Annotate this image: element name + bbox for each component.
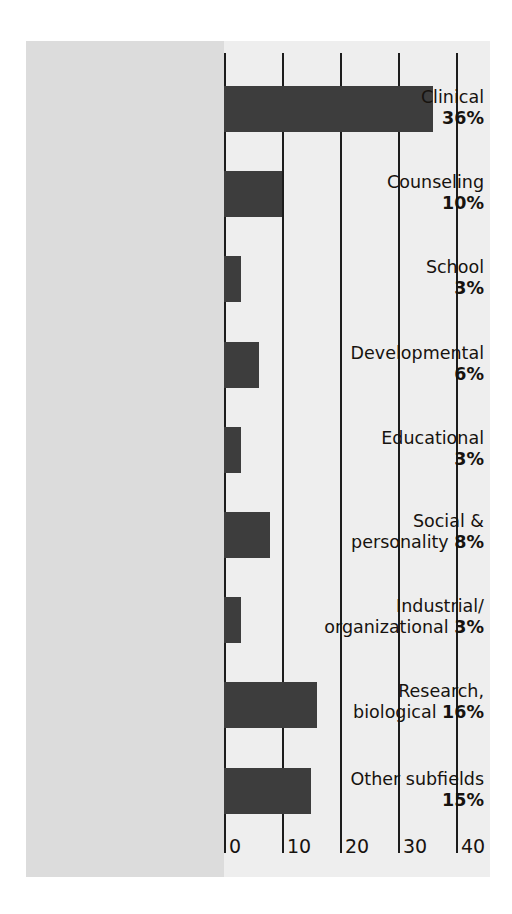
bar-educational bbox=[224, 427, 241, 473]
bar-label: Research,biological 16% bbox=[294, 681, 490, 723]
bar-label: Educational3% bbox=[294, 428, 490, 470]
bar-label-line1: Educational bbox=[294, 428, 484, 449]
bar-label-line2: biological 16% bbox=[294, 702, 484, 723]
bar-label-line2: 3% bbox=[294, 449, 484, 470]
bar-label-line1: Developmental bbox=[294, 343, 484, 364]
bar-label-line2: 15% bbox=[294, 790, 484, 811]
bar-value-label: 6% bbox=[454, 364, 484, 384]
bar-industrial-organizational bbox=[224, 597, 241, 643]
bar-value-label: 3% bbox=[454, 449, 484, 469]
bar-label-line2: 36% bbox=[294, 108, 484, 129]
category-label-band bbox=[26, 41, 224, 877]
bar-label-line2: 10% bbox=[294, 193, 484, 214]
bar-label: School3% bbox=[294, 257, 490, 299]
bar-label-line1: Other subfields bbox=[294, 769, 484, 790]
x-tick-label-30: 30 bbox=[403, 835, 427, 857]
bar-counseling bbox=[224, 171, 282, 217]
bar-value-label: 3% bbox=[454, 278, 484, 298]
x-tick-label-40: 40 bbox=[461, 835, 485, 857]
bar-label: Clinical36% bbox=[294, 87, 490, 129]
x-tick-label-10: 10 bbox=[287, 835, 311, 857]
bar-value-label: 36% bbox=[442, 108, 484, 128]
bar-value-label: 16% bbox=[442, 702, 484, 722]
bar-label-line1: Social & bbox=[294, 511, 484, 532]
bar-value-label: 10% bbox=[442, 193, 484, 213]
bar-label: Industrial/organizational 3% bbox=[294, 596, 490, 638]
bar-label: Developmental6% bbox=[294, 343, 490, 385]
bar-label: Social &personality 8% bbox=[294, 511, 490, 553]
figure: 010203040 Clinical36%Counseling10%School… bbox=[0, 0, 512, 914]
bar-chart: 010203040 Clinical36%Counseling10%School… bbox=[26, 41, 490, 877]
bar-label: Counseling10% bbox=[294, 172, 490, 214]
bar-label-line2: 6% bbox=[294, 364, 484, 385]
bar-school bbox=[224, 256, 241, 302]
bar-social-personality bbox=[224, 512, 270, 558]
bar-label-line1: Clinical bbox=[294, 87, 484, 108]
x-tick-label-0: 0 bbox=[229, 835, 241, 857]
bar-label-line1: Industrial/ bbox=[294, 596, 484, 617]
bar-label-line1: Research, bbox=[294, 681, 484, 702]
bar-label-line1: Counseling bbox=[294, 172, 484, 193]
bar-label-line2: 3% bbox=[294, 278, 484, 299]
bar-value-label: 3% bbox=[454, 617, 484, 637]
bar-label-line2: personality 8% bbox=[294, 532, 484, 553]
bar-value-label: 8% bbox=[454, 532, 484, 552]
x-tick-label-20: 20 bbox=[345, 835, 369, 857]
bar-label-line2: organizational 3% bbox=[294, 617, 484, 638]
bar-value-label: 15% bbox=[442, 790, 484, 810]
bar-label: Other subfields15% bbox=[294, 769, 490, 811]
bar-label-line1: School bbox=[294, 257, 484, 278]
bar-developmental bbox=[224, 342, 259, 388]
